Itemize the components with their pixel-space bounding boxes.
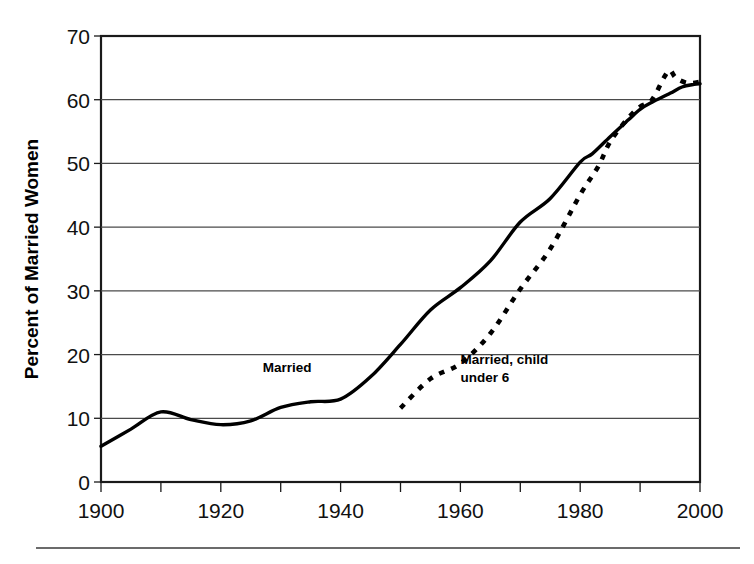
x-tick-label-1940: 1940 xyxy=(317,499,364,522)
married-child-under-6-label: Married, childunder 6 xyxy=(460,352,548,385)
married-child-under-6-label-line-2: under 6 xyxy=(460,370,509,385)
y-tick-label-30: 30 xyxy=(67,280,90,303)
married-child-under-6-label-line-1: Married, child xyxy=(460,352,548,367)
y-axis-tick-labels: 010203040506070 xyxy=(67,25,101,494)
series-line-married xyxy=(101,84,700,447)
y-tick-label-10: 10 xyxy=(67,407,90,430)
x-axis-ticks xyxy=(101,482,700,492)
married-label: Married xyxy=(263,360,312,375)
data-series-group xyxy=(101,70,700,446)
y-tick-label-40: 40 xyxy=(67,216,90,239)
figure-container: 010203040506070 190019201940196019802000… xyxy=(0,0,754,564)
y-tick-label-70: 70 xyxy=(67,25,90,48)
x-tick-label-1960: 1960 xyxy=(437,499,484,522)
y-tick-label-20: 20 xyxy=(67,344,90,367)
x-axis-tick-labels: 190019201940196019802000 xyxy=(78,499,724,522)
x-tick-label-1980: 1980 xyxy=(557,499,604,522)
y-tick-label-60: 60 xyxy=(67,89,90,112)
line-chart: 010203040506070 190019201940196019802000… xyxy=(0,0,754,564)
y-axis-title: Percent of Married Women xyxy=(21,139,42,379)
x-tick-label-1920: 1920 xyxy=(197,499,244,522)
series-annotations: MarriedMarried, childunder 6 xyxy=(263,352,548,385)
y-tick-label-50: 50 xyxy=(67,152,90,175)
x-tick-label-1900: 1900 xyxy=(78,499,125,522)
gridlines xyxy=(101,100,700,419)
married-label-line-1: Married xyxy=(263,360,312,375)
x-tick-label-2000: 2000 xyxy=(677,499,724,522)
series-line-married-child-under-6 xyxy=(401,70,701,408)
plot-frame xyxy=(101,36,700,482)
y-tick-label-0: 0 xyxy=(78,471,90,494)
